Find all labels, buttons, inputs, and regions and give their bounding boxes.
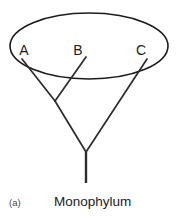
panel-label: (a) — [9, 197, 21, 208]
branch-c — [86, 59, 147, 152]
branch-a — [22, 59, 55, 101]
figure-caption: Monophylum — [54, 194, 131, 209]
branch-ab — [55, 101, 86, 152]
figure-container: A B C (a) Monophylum — [0, 0, 180, 217]
taxon-label-a: A — [19, 42, 29, 58]
monophylum-diagram: A B C (a) Monophylum — [0, 0, 180, 217]
taxon-label-c: C — [136, 42, 146, 58]
taxon-label-b: B — [73, 42, 82, 58]
